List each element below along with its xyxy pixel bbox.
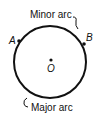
center-label: O bbox=[47, 63, 55, 74]
minor-arc-leader bbox=[73, 17, 78, 29]
circle bbox=[14, 26, 86, 98]
point-b-label: B bbox=[86, 32, 93, 43]
center-dot bbox=[49, 58, 52, 61]
major-arc-leader bbox=[24, 98, 28, 107]
circle-diagram: Minor arc A B O Major arc bbox=[0, 0, 96, 119]
major-arc-label: Major arc bbox=[31, 102, 73, 113]
point-a-label: A bbox=[8, 35, 16, 46]
minor-arc-label: Minor arc bbox=[30, 9, 72, 20]
point-a-dot bbox=[17, 39, 21, 43]
